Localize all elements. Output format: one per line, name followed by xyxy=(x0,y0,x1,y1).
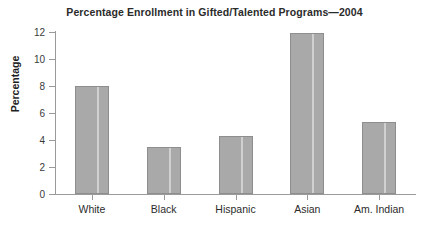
bar xyxy=(362,122,396,194)
y-tick-label: 8 xyxy=(5,81,45,92)
x-axis-label: Hispanic xyxy=(215,203,255,215)
x-tick-mark xyxy=(307,194,308,200)
y-tick-mark xyxy=(49,194,55,195)
chart-title: Percentage Enrollment in Gifted/Talented… xyxy=(0,6,429,18)
bar xyxy=(75,86,109,194)
bar xyxy=(290,33,324,194)
bar-highlight xyxy=(241,137,243,193)
bar-highlight xyxy=(312,34,314,193)
bar-highlight xyxy=(384,123,386,193)
y-tick-label: 12 xyxy=(5,27,45,38)
bar-highlight xyxy=(169,148,171,193)
y-axis-line xyxy=(55,31,56,195)
y-tick-mark xyxy=(49,140,55,141)
bar xyxy=(147,147,181,194)
y-tick-label: 2 xyxy=(5,162,45,173)
y-tick-label: 4 xyxy=(5,135,45,146)
bar-highlight xyxy=(97,87,99,193)
x-axis-label: Am. Indian xyxy=(354,203,404,215)
y-tick-label: 10 xyxy=(5,54,45,65)
x-axis-label: Black xyxy=(151,203,177,215)
bar xyxy=(219,136,253,194)
y-tick-label: 6 xyxy=(5,108,45,119)
x-tick-mark xyxy=(92,194,93,200)
x-axis-label: Asian xyxy=(294,203,320,215)
y-tick-label: 0 xyxy=(5,189,45,200)
y-tick-mark xyxy=(49,113,55,114)
x-tick-mark xyxy=(236,194,237,200)
y-tick-mark xyxy=(49,59,55,60)
chart-figure: Percentage Enrollment in Gifted/Talented… xyxy=(0,0,429,231)
x-tick-mark xyxy=(164,194,165,200)
y-tick-mark xyxy=(49,32,55,33)
x-tick-mark xyxy=(379,194,380,200)
y-tick-mark xyxy=(49,167,55,168)
y-tick-mark xyxy=(49,86,55,87)
x-axis-label: White xyxy=(78,203,105,215)
